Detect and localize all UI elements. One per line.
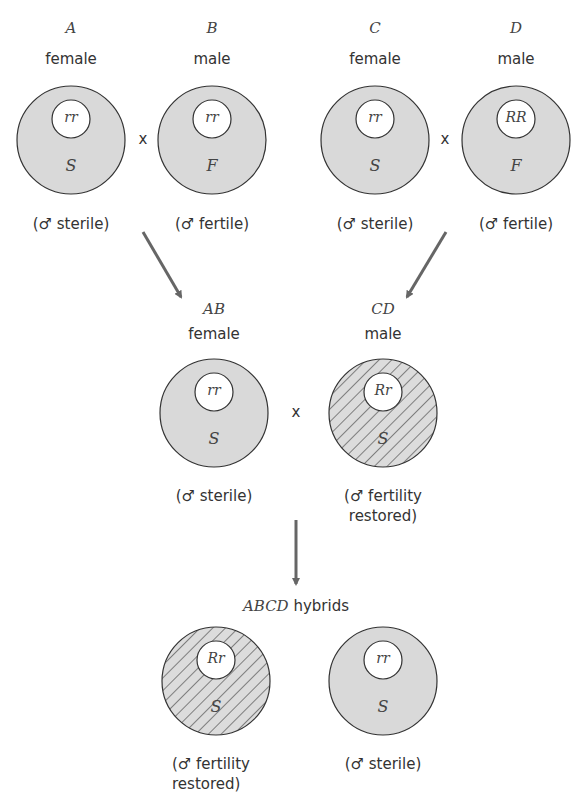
circle-parent-b xyxy=(158,86,266,194)
parent-c-cytoplasm: S xyxy=(370,156,381,175)
parent-a-letter: A xyxy=(66,19,77,37)
breeding-diagram-graphics xyxy=(0,0,581,810)
circle-parent-c xyxy=(321,86,429,194)
parent-b-cytoplasm: F xyxy=(206,156,217,175)
parent-c-note: (♂ sterile) xyxy=(337,214,414,234)
parent-b-genotype: rr xyxy=(205,109,218,125)
parent-c-genotype: rr xyxy=(368,109,381,125)
parent-a-cytoplasm: S xyxy=(66,156,77,175)
f1-ab-letter: AB xyxy=(203,300,225,318)
hybrid-fertile-cytoplasm: S xyxy=(211,697,222,716)
parent-d-genotype: RR xyxy=(505,109,526,125)
parent-d-cytoplasm: F xyxy=(510,156,521,175)
parent-d-sex: male xyxy=(497,50,534,68)
f1-cd-cytoplasm: S xyxy=(378,429,389,448)
arrow-c-d-to-cd xyxy=(407,232,446,297)
parent-c-letter: C xyxy=(369,19,380,37)
f1-cd-note-line1: (♂ fertility xyxy=(344,486,422,506)
hybrid-fertile-note-line1: (♂ fertility xyxy=(172,754,250,774)
arrow-a-b-to-ab xyxy=(143,232,181,297)
f1-cd-note-line2: restored) xyxy=(349,506,417,526)
parent-b-sex: male xyxy=(193,50,230,68)
hybrid-sterile-note: (♂ sterile) xyxy=(345,754,422,774)
f1-cd-sex: male xyxy=(364,325,401,343)
circle-f1-cd xyxy=(329,359,437,467)
hybrid-sterile-genotype: rr xyxy=(376,650,389,666)
parent-d-note: (♂ fertile) xyxy=(479,214,553,234)
circle-hybrid-sterile xyxy=(329,627,437,735)
circle-parent-a xyxy=(17,86,125,194)
parent-c-sex: female xyxy=(349,50,401,68)
hybrids-title-italic: ABCD xyxy=(243,597,289,615)
f1-ab-cytoplasm: S xyxy=(209,429,220,448)
parent-b-letter: B xyxy=(206,19,217,37)
f1-ab-genotype: rr xyxy=(207,382,220,398)
parent-b-note: (♂ fertile) xyxy=(175,214,249,234)
f1-ab-note: (♂ sterile) xyxy=(176,486,253,506)
hybrid-fertile-note-line2: restored) xyxy=(172,774,240,794)
hybrid-sterile-cytoplasm: S xyxy=(378,697,389,716)
hybrids-title-rest: hybrids xyxy=(289,597,349,615)
parent-a-sex: female xyxy=(45,50,97,68)
cross-symbol-cd: x xyxy=(441,130,450,148)
f1-cd-letter: CD xyxy=(371,300,395,318)
circle-f1-ab xyxy=(160,359,268,467)
cross-symbol-ab: x xyxy=(139,130,148,148)
cross-symbol-f1: x xyxy=(292,403,301,421)
circle-hybrid-fertile xyxy=(162,627,270,735)
parent-a-genotype: rr xyxy=(64,109,77,125)
parent-a-note: (♂ sterile) xyxy=(33,214,110,234)
circle-parent-d xyxy=(462,86,570,194)
f1-ab-sex: female xyxy=(188,325,240,343)
parent-d-letter: D xyxy=(510,19,522,37)
f1-cd-genotype: Rr xyxy=(374,382,391,398)
hybrids-title: ABCD hybrids xyxy=(243,597,349,615)
hybrid-fertile-genotype: Rr xyxy=(207,650,224,666)
